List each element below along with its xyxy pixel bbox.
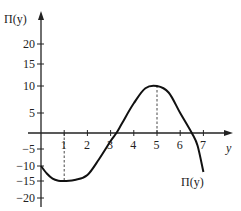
y-tick-label: 5: [29, 106, 35, 120]
y-tick-label: 10: [23, 79, 35, 93]
profit-chart: 12345672015105−5−10−15−20 Π(y) y Π(y): [0, 0, 241, 211]
y-tick-label: 20: [23, 37, 35, 51]
curve-label: Π(y): [181, 175, 204, 189]
y-tick-label: −20: [16, 191, 35, 205]
x-tick-label: 2: [84, 138, 90, 152]
x-tick-label: 5: [154, 138, 160, 152]
x-tick-label: 4: [130, 138, 136, 152]
x-tick-label: 1: [61, 138, 67, 152]
y-tick-label: −15: [16, 174, 35, 188]
x-axis-label: y: [225, 141, 232, 155]
x-tick-label: 7: [200, 138, 206, 152]
y-axis-arrow-icon: [38, 11, 44, 20]
y-tick-label: 15: [23, 57, 35, 71]
y-axis-label: Π(y): [4, 12, 27, 26]
x-tick-label: 6: [177, 138, 183, 152]
x-axis-arrow-icon: [224, 130, 233, 136]
y-tick-label: −10: [16, 159, 35, 173]
ticks: 12345672015105−5−10−15−20: [16, 37, 206, 205]
y-tick-label: −5: [22, 142, 35, 156]
